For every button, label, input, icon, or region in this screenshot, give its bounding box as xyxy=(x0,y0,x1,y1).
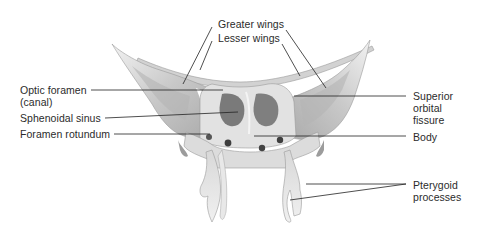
label-greater-wings: Greater wings xyxy=(218,18,284,30)
label-sof-line2: orbital xyxy=(413,102,453,114)
label-sphenoidal-sinus: Sphenoidal sinus xyxy=(20,112,101,124)
foramen-rotundum-right xyxy=(259,145,265,151)
label-foramen-rotundum: Foramen rotundum xyxy=(20,128,110,140)
label-pterygoid-line1: Pterygoid xyxy=(413,179,461,191)
label-sof-line3: fissure xyxy=(413,114,453,126)
sphenoid-bone-diagram: Greater wings Lesser wings Optic foramen… xyxy=(0,0,478,228)
label-pterygoid-line2: processes xyxy=(413,191,461,203)
left-pterygoid-process-shape xyxy=(200,150,227,222)
label-superior-orbital-fissure: Superior orbital fissure xyxy=(413,90,453,126)
label-optic-foramen: Optic foramen (canal) xyxy=(20,84,87,108)
label-optic-foramen-line1: Optic foramen xyxy=(20,84,87,96)
label-optic-foramen-line2: (canal) xyxy=(20,96,87,108)
label-lesser-wings: Lesser wings xyxy=(218,32,280,44)
label-body: Body xyxy=(413,131,437,143)
label-pterygoid-processes: Pterygoid processes xyxy=(413,179,461,203)
label-sof-line1: Superior xyxy=(413,90,453,102)
foramen-rotundum-left xyxy=(206,134,212,140)
right-pterygoid-process-shape xyxy=(283,150,302,222)
